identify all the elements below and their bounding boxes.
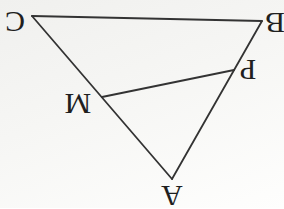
vertex-label-M: M: [65, 88, 92, 121]
vertex-label-C: C: [5, 6, 25, 39]
triangle-side-CB: [32, 16, 262, 21]
triangle-diagram: CBAMP: [0, 0, 284, 208]
triangle-side-BA: [172, 21, 262, 179]
vertex-label-B: B: [265, 7, 284, 40]
photographed-textbook-figure: CBAMP: [0, 0, 284, 208]
cevian-segment-MP: [102, 70, 234, 97]
vertex-label-P: P: [240, 54, 257, 87]
vertex-label-A: A: [161, 180, 183, 209]
